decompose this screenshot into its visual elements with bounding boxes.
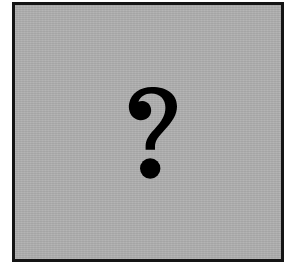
image-canvas: ?: [0, 0, 306, 267]
question-mark-dot: [140, 158, 160, 178]
image-placeholder-frame: [12, 2, 284, 262]
question-mark-stroke: [129, 87, 177, 150]
question-mark-icon: [128, 85, 190, 185]
